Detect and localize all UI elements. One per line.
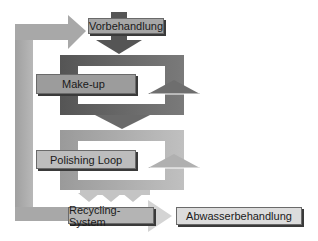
make-up-box: Make-up bbox=[36, 74, 136, 94]
make-up-label: Make-up bbox=[62, 78, 105, 90]
vorbehandlung-box: Vorbehandlung bbox=[88, 18, 164, 34]
vorbehandlung-label: Vorbehandlung bbox=[89, 20, 163, 32]
process-diagram: Vorbehandlung Make-up Polishing Loop Rec… bbox=[0, 0, 318, 241]
recycling-system-box: Recycling-System bbox=[68, 207, 154, 224]
abwasserbehandlung-box: Abwasserbehandlung bbox=[176, 207, 302, 225]
polishing-loop-box: Polishing Loop bbox=[36, 150, 136, 169]
return-loop-arrow bbox=[15, 15, 86, 221]
recycling-system-label: Recycling-System bbox=[69, 204, 153, 228]
abwasserbehandlung-label: Abwasserbehandlung bbox=[186, 210, 292, 222]
diagram-shapes bbox=[0, 0, 318, 241]
polishing-outflow-arrows bbox=[78, 190, 150, 202]
make-up-to-polishing-arrow bbox=[95, 115, 150, 129]
polishing-loop-label: Polishing Loop bbox=[50, 154, 122, 166]
